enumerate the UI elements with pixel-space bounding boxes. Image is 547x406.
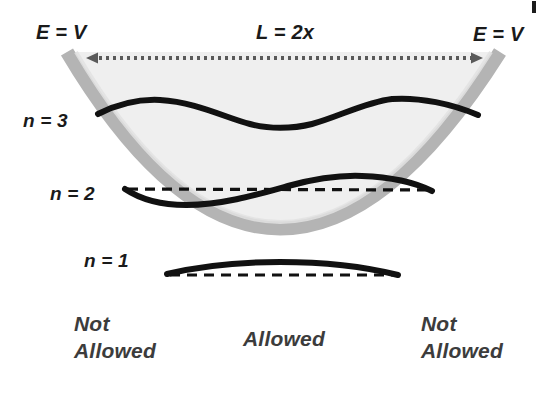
wavefunction-n1 [167,262,398,275]
label-allowed-center: Allowed [243,327,325,351]
label-not-allowed-left-line2: Allowed [74,339,156,363]
label-e-equals-v-right: E = V [473,23,523,46]
label-not-allowed-right-line2: Allowed [421,339,503,363]
label-not-allowed-left-line1: Not [74,312,110,336]
label-n-3: n = 3 [23,110,68,132]
label-not-allowed-right-line1: Not [421,312,457,336]
label-n-1: n = 1 [84,250,129,272]
quantum-well-figure: E = V L = 2x E = V n = 3 n = 2 n = 1 Not… [0,0,547,406]
label-well-width: L = 2x [256,21,314,44]
label-n-2: n = 2 [50,183,95,205]
corner-tick-icon [532,1,536,13]
label-e-equals-v-left: E = V [36,21,86,44]
